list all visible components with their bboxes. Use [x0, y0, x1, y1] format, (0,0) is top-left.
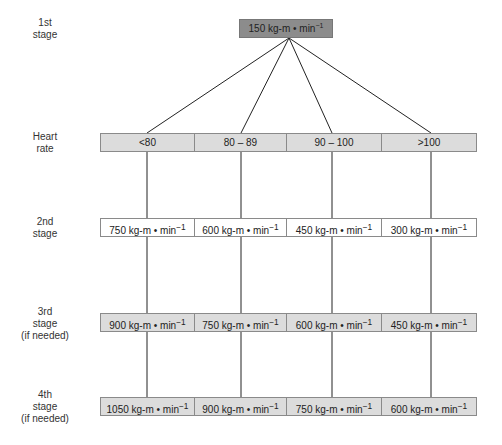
- hr-cell: <80: [100, 133, 195, 152]
- workload-cell: 750 kg-m • min−1: [287, 397, 382, 416]
- label-line: stage: [0, 228, 90, 240]
- unit-exponent: −1: [458, 317, 468, 327]
- workload-cell: 600 kg-m • min−1: [195, 218, 287, 237]
- label-1st-stage: 1st stage: [0, 17, 90, 41]
- workload-value: 750: [296, 404, 313, 415]
- workload-value: 900: [109, 320, 126, 331]
- workload-cell: 900 kg-m • min−1: [100, 313, 195, 332]
- unit-exponent: −1: [269, 401, 279, 411]
- unit-exponent: −1: [363, 317, 373, 327]
- unit-text: kg-m • min: [129, 225, 176, 236]
- unit-text: kg-m • min: [222, 320, 269, 331]
- workload-value: 600: [202, 225, 219, 236]
- unit-text: kg-m • min: [315, 320, 362, 331]
- label-line: stage: [0, 318, 90, 330]
- fourth-stage-row: 1050 kg-m • min−1 900 kg-m • min−1 750 k…: [100, 397, 477, 416]
- label-line: Heart: [0, 131, 90, 143]
- workload-cell: 750 kg-m • min−1: [195, 313, 287, 332]
- workload-value: 150: [249, 23, 266, 34]
- workload-cell: 750 kg-m • min−1: [100, 218, 195, 237]
- unit-text: kg-m • min: [410, 404, 457, 415]
- workload-cell: 450 kg-m • min−1: [382, 313, 477, 332]
- workload-value: 750: [109, 225, 126, 236]
- unit-text: kg-m • min: [268, 23, 315, 34]
- unit-exponent: −1: [458, 401, 468, 411]
- label-heart-rate: Heart rate: [0, 131, 90, 155]
- unit-exponent: −1: [458, 222, 468, 232]
- workload-value: 600: [296, 320, 313, 331]
- workload-cell: 900 kg-m • min−1: [195, 397, 287, 416]
- unit-text: kg-m • min: [129, 320, 176, 331]
- unit-text: kg-m • min: [222, 225, 269, 236]
- label-line: stage: [0, 401, 90, 413]
- unit-exponent: −1: [176, 317, 186, 327]
- workload-cell: 1050 kg-m • min−1: [100, 397, 195, 416]
- label-line: (if needed): [0, 330, 90, 342]
- unit-exponent: −1: [176, 222, 186, 232]
- unit-text: kg-m • min: [315, 404, 362, 415]
- unit-exponent: −1: [179, 401, 189, 411]
- label-4th-stage: 4th stage (if needed): [0, 389, 90, 425]
- hr-cell: >100: [382, 133, 477, 152]
- label-3rd-stage: 3rd stage (if needed): [0, 306, 90, 342]
- unit-exponent: −1: [363, 222, 373, 232]
- unit-exponent: −1: [363, 401, 373, 411]
- hr-value: >100: [418, 137, 441, 148]
- workload-cell: 600 kg-m • min−1: [382, 397, 477, 416]
- unit-exponent: −1: [315, 22, 323, 29]
- hr-value: 90 – 100: [315, 137, 354, 148]
- unit-text: kg-m • min: [132, 404, 179, 415]
- label-line: 4th: [0, 389, 90, 401]
- workload-value: 900: [202, 404, 219, 415]
- label-line: rate: [0, 143, 90, 155]
- unit-text: kg-m • min: [410, 320, 457, 331]
- label-line: 3rd: [0, 306, 90, 318]
- label-2nd-stage: 2nd stage: [0, 216, 90, 240]
- unit-exponent: −1: [269, 317, 279, 327]
- label-line: 2nd: [0, 216, 90, 228]
- third-stage-row: 900 kg-m • min−1 750 kg-m • min−1 600 kg…: [100, 313, 477, 332]
- label-line: 1st: [0, 17, 90, 29]
- workload-value: 1050: [107, 404, 129, 415]
- workload-value: 750: [202, 320, 219, 331]
- hr-cell: 80 – 89: [195, 133, 287, 152]
- unit-text: kg-m • min: [222, 404, 269, 415]
- unit-text: kg-m • min: [315, 225, 362, 236]
- second-stage-row: 750 kg-m • min−1 600 kg-m • min−1 450 kg…: [100, 218, 477, 237]
- hr-cell: 90 – 100: [287, 133, 382, 152]
- workload-cell: 600 kg-m • min−1: [287, 313, 382, 332]
- workload-value: 600: [391, 404, 408, 415]
- workload-cell: 300 kg-m • min−1: [382, 218, 477, 237]
- workload-value: 300: [391, 225, 408, 236]
- unit-exponent: −1: [269, 222, 279, 232]
- workload-value: 450: [296, 225, 313, 236]
- label-line: (if needed): [0, 413, 90, 425]
- unit-text: kg-m • min: [410, 225, 457, 236]
- workload-cell: 450 kg-m • min−1: [287, 218, 382, 237]
- workload-value: 450: [391, 320, 408, 331]
- hr-value: 80 – 89: [224, 137, 257, 148]
- label-line: stage: [0, 29, 90, 41]
- heart-rate-row: <80 80 – 89 90 – 100 >100: [100, 133, 477, 152]
- hr-value: <80: [139, 137, 156, 148]
- first-stage-box: 150 kg-m • min−1: [239, 19, 333, 38]
